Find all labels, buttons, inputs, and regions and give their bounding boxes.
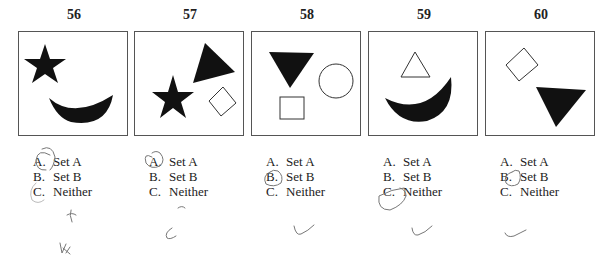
option-c[interactable]: C.Neither — [33, 184, 92, 199]
answer-options: A.Set A B.Set B C.Neither — [383, 154, 442, 199]
option-a[interactable]: A.Set A — [500, 154, 559, 169]
option-c[interactable]: C.Neither — [500, 184, 559, 199]
question-number: 57 — [134, 7, 246, 23]
small-mark — [178, 207, 185, 209]
figure-box — [485, 31, 595, 136]
option-b[interactable]: B.Set B — [266, 169, 325, 184]
option-b[interactable]: B.Set B — [149, 169, 208, 184]
filled-star-shape — [24, 44, 66, 83]
filled-crescent-shape — [385, 77, 452, 122]
question-number: 59 — [368, 7, 480, 23]
answer-options: A.Set A B.Set B C.Neither — [500, 154, 559, 199]
figure-box — [134, 31, 244, 136]
option-a[interactable]: A.Set A — [383, 154, 442, 169]
figure-box — [251, 31, 361, 136]
c-letter-mark — [166, 228, 176, 239]
option-c[interactable]: C.Neither — [149, 184, 208, 199]
scribble-mark — [60, 243, 70, 254]
outline-square-shape — [280, 97, 304, 119]
filled-inverted-triangle-shape — [269, 52, 314, 88]
filled-star-shape — [152, 75, 194, 118]
filled-crescent-shape — [49, 95, 113, 123]
outline-circle-shape — [319, 64, 353, 98]
option-b[interactable]: B.Set B — [33, 169, 92, 184]
option-a[interactable]: A.Set A — [266, 154, 325, 169]
check-mark — [412, 226, 432, 235]
filled-triangle-shape — [193, 43, 235, 83]
figure-box — [368, 31, 478, 136]
outline-diamond-shape — [506, 48, 538, 81]
outline-diamond-shape — [209, 87, 236, 116]
check-mark — [294, 225, 314, 234]
check-mark — [505, 230, 526, 237]
option-a[interactable]: A.Set A — [33, 154, 92, 169]
option-b[interactable]: B.Set B — [383, 169, 442, 184]
answer-options: A.Set A B.Set B C.Neither — [266, 154, 325, 199]
figure-box — [18, 31, 128, 136]
question-number: 58 — [251, 7, 363, 23]
filled-inverted-triangle-shape — [536, 87, 586, 127]
option-a[interactable]: A.Set A — [149, 154, 208, 169]
x-mark — [67, 210, 76, 222]
option-c[interactable]: C.Neither — [266, 184, 325, 199]
outline-triangle-shape — [401, 52, 430, 77]
option-c[interactable]: C.Neither — [383, 184, 442, 199]
question-number: 60 — [485, 7, 597, 23]
question-number: 56 — [18, 7, 130, 23]
answer-options: A.Set A B.Set B C.Neither — [149, 154, 208, 199]
answer-options: A.Set A B.Set B C.Neither — [33, 154, 92, 199]
option-b[interactable]: B.Set B — [500, 169, 559, 184]
